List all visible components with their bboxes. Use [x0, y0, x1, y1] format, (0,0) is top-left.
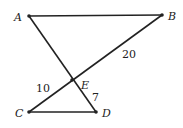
segment-ab — [29, 15, 162, 16]
measure-eb: 20 — [122, 48, 136, 61]
measure-ed: 7 — [92, 91, 99, 104]
point-e — [70, 78, 74, 82]
point-c — [27, 110, 31, 114]
label-e: E — [80, 79, 89, 92]
measure-ce: 10 — [36, 82, 50, 95]
label-b: B — [167, 10, 176, 23]
point-a — [27, 14, 31, 18]
label-a: A — [13, 11, 22, 24]
point-b — [160, 13, 164, 17]
geometry-diagram: A B C D E 20 10 7 — [0, 0, 183, 128]
segment-ad — [29, 16, 96, 112]
label-c: C — [15, 107, 24, 120]
point-d — [94, 110, 98, 114]
label-d: D — [101, 107, 111, 120]
